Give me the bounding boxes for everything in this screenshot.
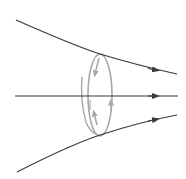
diagram-canvas	[0, 0, 186, 179]
current-loop	[82, 54, 113, 136]
field-line-bottom-arrow-icon	[148, 120, 156, 122]
field-lines	[15, 20, 178, 172]
loop-arrow-top	[95, 58, 99, 74]
loop-arrow-bottom	[94, 113, 97, 125]
field-diagram	[0, 0, 186, 179]
